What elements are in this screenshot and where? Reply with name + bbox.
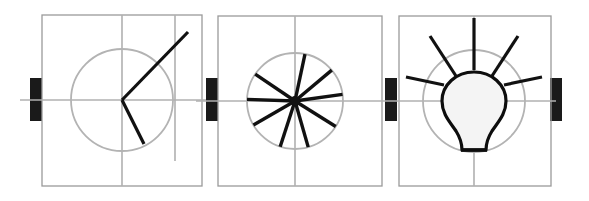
filmstrip-canvas [0,0,589,201]
starburst-keyframe-hub [290,96,300,106]
spoke-8 [247,99,295,101]
connector-tab-4 [550,78,562,121]
filmstrip-illustration [0,0,589,201]
connector-tab-2 [206,78,218,121]
connector-tab-3 [385,78,397,121]
